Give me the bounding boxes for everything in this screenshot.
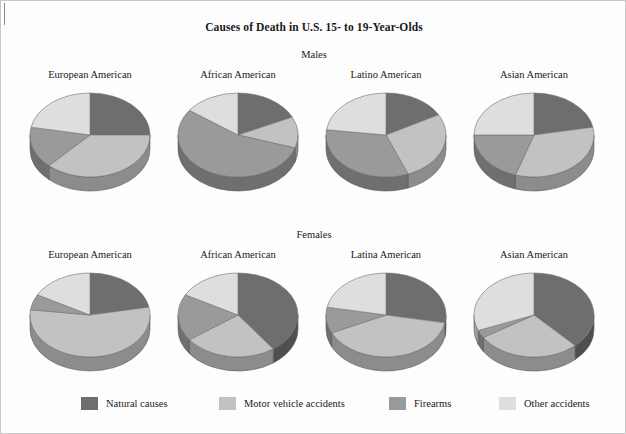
pie-panel-label: African American (163, 69, 313, 80)
pie-chart-males-african-american (171, 85, 305, 197)
legend-swatch-natural-causes (81, 397, 98, 410)
pie-panel-label: Asian American (459, 249, 609, 260)
legend-label-natural-causes: Natural causes (106, 398, 168, 409)
pie-chart-females-asian-american (467, 265, 601, 377)
legend-label-motor-vehicle-accidents: Motor vehicle accidents (244, 398, 345, 409)
pie-panel-label: Latina American (311, 249, 461, 260)
row-label-males: Males (1, 49, 626, 60)
pie-panel-females-asian-american: Asian American (459, 249, 609, 379)
pie-panel-label: African American (163, 249, 313, 260)
pie-chart-females-latina-american (319, 265, 453, 377)
pie-panel-males-latino-american: Latino American (311, 69, 461, 199)
legend-label-other-accidents: Other accidents (524, 398, 590, 409)
figure-canvas: Causes of Death in U.S. 15- to 19-Year-O… (0, 0, 626, 434)
pie-chart-males-asian-american (467, 85, 601, 197)
pie-chart-males-latino-american (319, 85, 453, 197)
pie-chart-females-european-american (23, 265, 157, 377)
legend-item-motor-vehicle-accidents: Motor vehicle accidents (219, 393, 345, 413)
legend-label-firearms: Firearms (414, 398, 451, 409)
pie-panel-males-asian-american: Asian American (459, 69, 609, 199)
legend-item-natural-causes: Natural causes (81, 393, 168, 413)
legend-item-firearms: Firearms (389, 393, 451, 413)
pie-panel-label: European American (15, 69, 165, 80)
legend-item-other-accidents: Other accidents (499, 393, 590, 413)
legend: Natural causes Motor vehicle accidents F… (1, 393, 626, 415)
chart-title: Causes of Death in U.S. 15- to 19-Year-O… (1, 21, 626, 33)
pie-panel-label: European American (15, 249, 165, 260)
legend-swatch-firearms (389, 397, 406, 410)
row-label-females: Females (1, 229, 626, 240)
pie-panel-females-european-american: European American (15, 249, 165, 379)
pie-panel-label: Latino American (311, 69, 461, 80)
pie-panel-males-african-american: African American (163, 69, 313, 199)
legend-swatch-motor-vehicle-accidents (219, 397, 236, 410)
pie-chart-males-european-american (23, 85, 157, 197)
pie-panel-label: Asian American (459, 69, 609, 80)
pie-chart-females-african-american (171, 265, 305, 377)
pie-panel-females-latina-american: Latina American (311, 249, 461, 379)
pie-panel-males-european-american: European American (15, 69, 165, 199)
legend-swatch-other-accidents (499, 397, 516, 410)
pie-panel-females-african-american: African American (163, 249, 313, 379)
